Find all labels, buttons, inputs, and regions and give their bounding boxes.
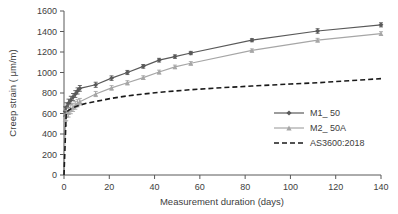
y-tick-label: 1200 bbox=[37, 47, 57, 57]
x-tick-label: 140 bbox=[373, 182, 388, 192]
legend-item-2[interactable]: M2_ 50A bbox=[274, 123, 346, 133]
legend-item-1[interactable]: M1_ 50 bbox=[274, 108, 340, 118]
chart-svg: 02004006008001000120014001600 Creep stra… bbox=[0, 0, 398, 214]
y-tick-label: 800 bbox=[42, 88, 57, 98]
legend-label: M1_ 50 bbox=[310, 108, 340, 118]
y-tick-label: 1600 bbox=[37, 6, 57, 16]
y-tick-label: 200 bbox=[42, 150, 57, 160]
y-tick-label: 0 bbox=[52, 170, 57, 180]
creep-strain-chart: 02004006008001000120014001600 Creep stra… bbox=[0, 0, 398, 214]
series-1 bbox=[63, 22, 384, 175]
y-axis-ticks bbox=[60, 11, 64, 175]
y-axis-group: 02004006008001000120014001600 Creep stra… bbox=[7, 6, 64, 180]
data-point bbox=[109, 76, 114, 81]
x-tick-label: 20 bbox=[104, 182, 114, 192]
legend-swatch-marker bbox=[286, 110, 291, 115]
y-tick-label: 400 bbox=[42, 129, 57, 139]
y-tick-label: 600 bbox=[42, 109, 57, 119]
y-tick-label: 1400 bbox=[37, 27, 57, 37]
y-axis-tick-labels: 02004006008001000120014001600 bbox=[37, 6, 57, 180]
x-axis-group: 020406080100120140 Measurement duration … bbox=[61, 175, 388, 207]
x-tick-label: 60 bbox=[195, 182, 205, 192]
chart-legend: M1_ 50M2_ 50AAS3600:2018 bbox=[274, 108, 365, 148]
y-axis-title: Creep strain ( μm/m) bbox=[7, 49, 18, 136]
data-point bbox=[315, 29, 320, 34]
x-tick-label: 80 bbox=[240, 182, 250, 192]
x-axis-title: Measurement duration (days) bbox=[160, 196, 284, 207]
data-point bbox=[93, 82, 98, 87]
x-axis-tick-labels: 020406080100120140 bbox=[61, 182, 388, 192]
legend-label: M2_ 50A bbox=[310, 123, 346, 133]
x-tick-label: 40 bbox=[150, 182, 160, 192]
y-tick-label: 1000 bbox=[37, 68, 57, 78]
data-point bbox=[93, 92, 98, 97]
series-2 bbox=[63, 31, 384, 175]
legend-item-3[interactable]: AS3600:2018 bbox=[274, 138, 365, 148]
x-tick-label: 120 bbox=[328, 182, 343, 192]
series-line bbox=[64, 34, 381, 175]
x-axis-ticks bbox=[64, 175, 381, 179]
legend-label: AS3600:2018 bbox=[310, 138, 365, 148]
x-tick-label: 0 bbox=[61, 182, 66, 192]
series-line bbox=[64, 25, 381, 175]
data-series-layer bbox=[63, 22, 384, 175]
data-point bbox=[64, 105, 69, 110]
x-tick-label: 100 bbox=[283, 182, 298, 192]
